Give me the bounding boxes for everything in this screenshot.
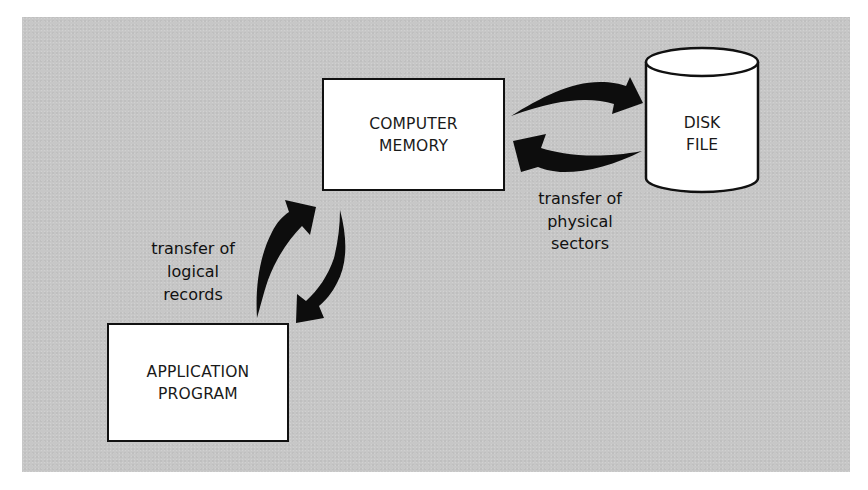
physical-label-line-2: physical: [519, 211, 641, 234]
computer-memory-label-line-1: COMPUTER: [369, 113, 458, 135]
arrow-memory-to-disk-icon: [511, 77, 643, 116]
logical-label-line-3: records: [132, 283, 254, 306]
disk-file-label-line-2: FILE: [645, 134, 759, 156]
physical-label-line-1: transfer of: [519, 188, 641, 211]
application-program-box: APPLICATION PROGRAM: [107, 323, 289, 442]
logical-records-transfer-label: transfer of logical records: [132, 237, 254, 306]
disk-file-label-line-1: DISK: [645, 112, 759, 134]
physical-label-line-3: sectors: [519, 233, 641, 256]
logical-label-line-2: logical: [132, 260, 254, 283]
physical-sectors-transfer-label: transfer of physical sectors: [519, 188, 641, 256]
arrow-disk-to-memory-icon: [513, 134, 642, 172]
application-program-label-line-2: PROGRAM: [158, 383, 238, 405]
disk-file-label: DISK FILE: [645, 112, 759, 156]
logical-label-line-1: transfer of: [132, 237, 254, 260]
computer-memory-label-line-2: MEMORY: [379, 135, 448, 157]
application-program-label-line-1: APPLICATION: [147, 361, 250, 383]
computer-memory-box: COMPUTER MEMORY: [322, 78, 505, 191]
